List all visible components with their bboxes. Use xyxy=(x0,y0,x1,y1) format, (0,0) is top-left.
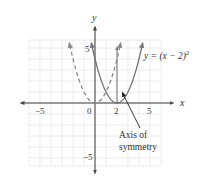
tick-label-5-x: 5 xyxy=(147,106,152,116)
annotation-arrow xyxy=(123,94,140,128)
tick-label-0: 0 xyxy=(87,106,92,116)
equation-text: y = (x − 2) xyxy=(143,51,186,62)
x-axis-label: x xyxy=(179,97,185,108)
tick-label-2: 2 xyxy=(114,106,119,116)
equation-exponent: 2 xyxy=(186,49,189,56)
annotation-line-2: symmetry xyxy=(119,142,157,152)
tick-label-neg5-x: −5 xyxy=(35,106,45,116)
tick-label-5-y: 5 xyxy=(85,44,90,54)
parabola-graph: y x −5 0 2 5 5 −5 y = (x − 2)2 Axis of s… xyxy=(0,0,204,186)
equation-label: y = (x − 2)2 xyxy=(143,49,189,62)
annotation-line-1: Axis of xyxy=(119,130,148,140)
tick-label-neg5-y: −5 xyxy=(83,152,93,162)
y-axis-label: y xyxy=(91,12,97,23)
